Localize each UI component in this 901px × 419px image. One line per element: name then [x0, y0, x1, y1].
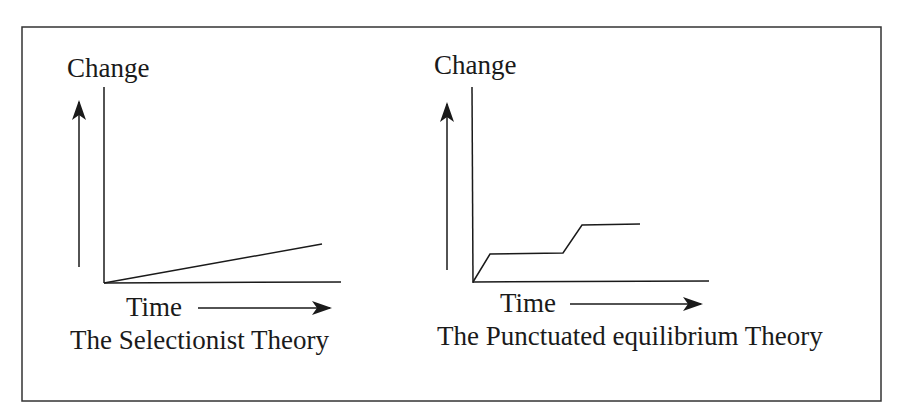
gradual-change-line	[104, 244, 322, 283]
panel-punctuated-equilibrium: Change Time The Punctuated equilibrium T…	[434, 50, 823, 351]
panel-caption: The Selectionist Theory	[70, 325, 329, 355]
x-axis	[104, 282, 341, 283]
punctuated-change-line	[473, 224, 640, 282]
y-axis	[472, 87, 473, 283]
x-axis-label: Time	[126, 292, 182, 322]
x-axis-label: Time	[500, 288, 556, 318]
x-axis	[473, 281, 709, 282]
panel-caption: The Punctuated equilibrium Theory	[437, 321, 823, 351]
y-axis-label: Change	[67, 53, 149, 83]
y-axis-label: Change	[434, 50, 516, 80]
panel-selectionist: Change Time The Selectionist Theory	[67, 53, 341, 355]
theory-comparison-figure: Change Time The Selectionist Theory Chan…	[0, 0, 901, 419]
